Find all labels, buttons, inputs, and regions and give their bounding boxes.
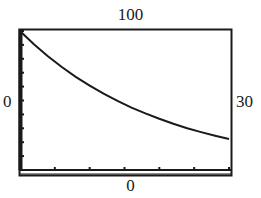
decay-curve	[20, 31, 229, 139]
axes	[20, 29, 231, 174]
chart-plot-area	[0, 0, 261, 198]
plot-frame	[20, 30, 232, 176]
